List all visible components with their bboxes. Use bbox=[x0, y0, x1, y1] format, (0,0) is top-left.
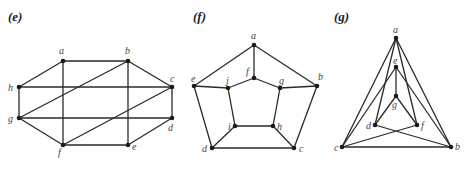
vertex-j bbox=[226, 86, 231, 91]
vertex-label-h: h bbox=[277, 121, 282, 132]
edge-a-h bbox=[19, 61, 63, 87]
vertex-e bbox=[126, 143, 131, 148]
vertex-c bbox=[170, 85, 175, 90]
vertex-c bbox=[340, 145, 345, 150]
vertex-label-d: d bbox=[202, 143, 208, 154]
edge-d-e bbox=[194, 86, 212, 148]
vertex-label-c: c bbox=[334, 142, 339, 153]
vertex-label-f: f bbox=[58, 147, 62, 158]
vertex-label-c: c bbox=[299, 143, 304, 154]
vertex-h bbox=[17, 85, 22, 90]
vertex-label-d: d bbox=[168, 122, 174, 133]
vertex-g bbox=[394, 94, 399, 99]
edge-c-f bbox=[63, 87, 172, 145]
vertex-b bbox=[449, 145, 454, 150]
vertex-label-f: f bbox=[421, 120, 425, 131]
edge-b-g bbox=[19, 61, 128, 118]
vertex-f bbox=[61, 143, 66, 148]
vertex-g bbox=[278, 86, 283, 91]
figure-label: (e) bbox=[8, 9, 22, 24]
vertex-label-g: g bbox=[8, 113, 13, 124]
vertex-b bbox=[126, 59, 131, 64]
vertex-label-j: j bbox=[224, 75, 229, 86]
edge-j-f bbox=[228, 78, 254, 88]
vertex-label-b: b bbox=[455, 141, 460, 152]
vertex-label-a: a bbox=[251, 30, 256, 41]
vertex-f bbox=[415, 123, 420, 128]
edge-e-a bbox=[194, 45, 254, 86]
vertex-d bbox=[373, 123, 378, 128]
vertex-label-g: g bbox=[392, 99, 397, 110]
edge-e-j bbox=[194, 86, 228, 88]
vertex-a bbox=[61, 59, 66, 64]
vertex-c bbox=[292, 146, 297, 151]
vertex-label-g: g bbox=[279, 75, 284, 86]
figure-label: (f) bbox=[193, 9, 206, 24]
edge-f-g bbox=[254, 78, 280, 88]
vertex-i bbox=[233, 124, 238, 129]
vertex-b bbox=[315, 84, 320, 89]
vertex-label-a: a bbox=[59, 45, 64, 56]
vertex-g bbox=[17, 116, 22, 121]
vertex-label-e: e bbox=[191, 73, 196, 84]
edge-b-g bbox=[280, 86, 317, 88]
vertex-a bbox=[252, 43, 257, 48]
vertex-label-e: e bbox=[393, 55, 398, 66]
vertex-h bbox=[271, 124, 276, 129]
figure-label: (g) bbox=[334, 9, 349, 24]
graph-e: (e)abcdefhg bbox=[8, 9, 175, 158]
vertex-label-d: d bbox=[366, 120, 372, 131]
edge-b-c bbox=[128, 61, 172, 87]
vertex-label-f: f bbox=[246, 66, 250, 77]
vertex-label-a: a bbox=[393, 24, 398, 35]
edge-d-b bbox=[375, 125, 451, 147]
edge-b-c bbox=[294, 86, 317, 148]
vertex-f bbox=[252, 76, 257, 81]
graph-g: (g)aegdfcb bbox=[334, 9, 460, 153]
vertex-label-h: h bbox=[8, 82, 13, 93]
vertex-label-b: b bbox=[125, 45, 130, 56]
vertex-label-b: b bbox=[318, 71, 323, 82]
graph-f: (f)abcdefghij bbox=[191, 9, 323, 154]
edge-a-b bbox=[254, 45, 317, 86]
edge-d-i bbox=[212, 126, 235, 148]
graph-figures-canvas: (e)abcdefhg (f)abcdefghij (g)aegdfcb bbox=[0, 0, 466, 176]
vertex-d bbox=[170, 116, 175, 121]
edge-f-c bbox=[342, 125, 417, 147]
vertex-e bbox=[192, 84, 197, 89]
vertex-label-e: e bbox=[132, 141, 137, 152]
vertex-d bbox=[210, 146, 215, 151]
vertex-a bbox=[394, 36, 399, 41]
vertex-label-c: c bbox=[170, 73, 175, 84]
edge-f-g bbox=[19, 118, 63, 145]
vertex-label-i: i bbox=[228, 121, 231, 132]
